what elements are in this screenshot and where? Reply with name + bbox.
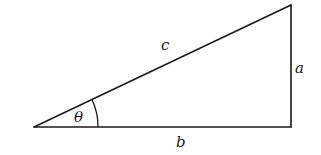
hypotenuse-label: c (161, 36, 170, 54)
angle-theta-label: θ (74, 108, 83, 126)
right-triangle-diagram: θ c a b (0, 0, 321, 155)
adjacent-side-label: b (176, 133, 186, 151)
triangle (34, 5, 291, 127)
opposite-side-label: a (295, 59, 304, 77)
angle-theta-arc (92, 100, 98, 128)
hypotenuse-c (34, 5, 291, 127)
